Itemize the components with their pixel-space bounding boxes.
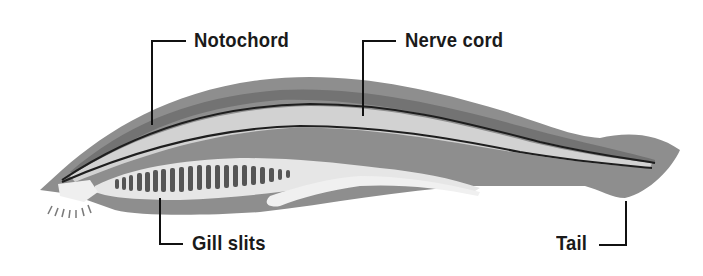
gill-slits-label: Gill slits (192, 231, 266, 255)
notochord-label: Notochord (194, 28, 289, 52)
nerve-cord-label: Nerve cord (405, 28, 503, 52)
tail-label: Tail (556, 231, 587, 255)
lancelet-diagram: Notochord Nerve cord Gill slits Tail (0, 0, 703, 276)
oral-cirri (48, 205, 91, 218)
tail-leader (599, 201, 626, 245)
lancelet-body-illustration (0, 0, 703, 276)
